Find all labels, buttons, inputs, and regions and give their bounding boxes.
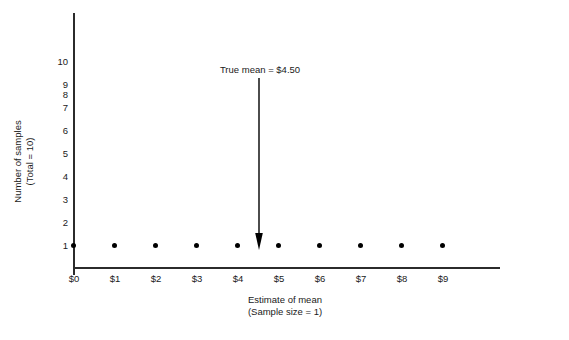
- x-tick-label-6: $6: [305, 274, 335, 284]
- down-arrow-icon: [252, 78, 266, 250]
- x-axis-title-line1: Estimate of mean: [248, 294, 322, 305]
- y-axis-title: Number of samples (Total = 10): [12, 107, 35, 217]
- data-point: [317, 243, 322, 248]
- y-tick-label-5: 5: [50, 149, 68, 159]
- x-axis-line: [73, 267, 500, 269]
- x-tick-label-0: $0: [59, 274, 89, 284]
- data-point: [235, 243, 240, 248]
- x-tick-label-3: $3: [182, 274, 212, 284]
- y-tick-label-6: 6: [50, 126, 68, 136]
- y-tick-label-1: 1: [50, 241, 68, 251]
- y-tick-label-10: 10: [46, 57, 68, 67]
- data-point: [399, 243, 404, 248]
- x-tick-label-2: $2: [141, 274, 171, 284]
- y-axis-title-line2: (Total = 10): [23, 138, 34, 186]
- true-mean-annotation-label: True mean = $4.50: [180, 64, 340, 75]
- x-tick-label-4: $4: [223, 274, 253, 284]
- y-tick-label-3: 3: [50, 195, 68, 205]
- x-tick-label-5: $5: [264, 274, 294, 284]
- x-tick-label-9: $9: [428, 274, 458, 284]
- x-axis-title-line2: (Sample size = 1): [248, 306, 322, 317]
- y-axis-line: [73, 13, 75, 275]
- y-tick-label-8: 8: [50, 90, 68, 100]
- x-tick-label-7: $7: [346, 274, 376, 284]
- scatter-plot-figure: 1 2 3 4 5 6 7 8 9 10 $0 $1 $2 $3 $4 $5 $…: [0, 0, 569, 340]
- y-tick-label-2: 2: [50, 218, 68, 228]
- data-point: [276, 243, 281, 248]
- x-axis-title: Estimate of mean (Sample size = 1): [195, 294, 375, 317]
- y-tick-label-9: 9: [50, 80, 68, 90]
- data-point: [440, 243, 445, 248]
- y-tick-label-7: 7: [50, 103, 68, 113]
- x-tick-label-1: $1: [100, 274, 130, 284]
- data-point: [194, 243, 199, 248]
- data-point: [71, 243, 76, 248]
- data-point: [153, 243, 158, 248]
- data-point: [112, 243, 117, 248]
- data-point: [358, 243, 363, 248]
- y-tick-label-4: 4: [50, 172, 68, 182]
- x-tick-label-8: $8: [387, 274, 417, 284]
- y-axis-title-line1: Number of samples: [12, 120, 23, 202]
